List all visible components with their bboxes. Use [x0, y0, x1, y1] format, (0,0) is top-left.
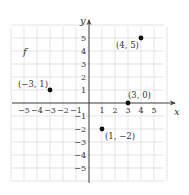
point-label: (−3, 1) — [18, 79, 48, 89]
x-tick-label: 3 — [125, 106, 130, 115]
data-point — [100, 127, 105, 132]
function-label: f — [22, 46, 29, 57]
y-tick-label: −5 — [74, 164, 86, 173]
y-tick-label: 5 — [81, 34, 86, 43]
y-axis-label: y — [79, 15, 86, 26]
x-tick-label: −5 — [18, 106, 30, 115]
y-tick-label: −1 — [74, 112, 86, 121]
point-label: (4, 5) — [116, 40, 139, 50]
data-point — [139, 36, 144, 41]
y-tick-label: 1 — [81, 86, 86, 95]
x-tick-label: 1 — [99, 106, 104, 115]
y-tick-label: −2 — [74, 125, 86, 134]
y-tick-label: 2 — [81, 73, 86, 82]
y-tick-label: −4 — [74, 151, 86, 160]
point-label: (3, 0) — [128, 90, 151, 100]
data-point — [48, 88, 53, 93]
y-tick-label: 3 — [81, 60, 86, 69]
x-tick-label: 2 — [112, 106, 117, 115]
x-tick-label: 4 — [138, 106, 143, 115]
x-tick-label: 5 — [151, 106, 156, 115]
coordinate-plane: xy−5−4−3−2−112345−5−4−3−2−112345f(−3, 1)… — [0, 0, 189, 195]
y-tick-label: 4 — [81, 47, 86, 56]
x-tick-label: −4 — [31, 106, 43, 115]
data-point — [126, 101, 131, 106]
x-tick-label: −2 — [57, 106, 69, 115]
x-tick-label: −3 — [44, 106, 56, 115]
point-label: (1, −2) — [105, 131, 135, 141]
y-tick-label: −3 — [74, 138, 86, 147]
x-axis-label: x — [174, 106, 180, 117]
